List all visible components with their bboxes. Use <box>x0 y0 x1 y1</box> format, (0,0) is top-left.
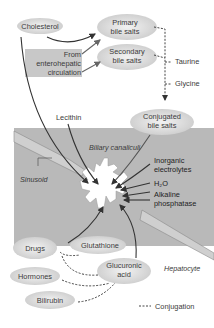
glucuronic-acid-label-1: Glucuronic <box>106 261 142 270</box>
inorganic-electrolytes-label-1: Inorganic <box>154 156 185 165</box>
enterohepatic-label-1: From <box>64 50 81 59</box>
taurine-label: Taurine <box>175 57 199 66</box>
secondary-bile-salts-label-2: bile salts <box>113 56 142 65</box>
hormones-label: Hormones <box>18 272 52 281</box>
glutathione-label: Glutathione <box>81 241 119 250</box>
biliary-canaliculi-label: Biliary canaliculi <box>89 143 141 152</box>
conjugated-bile-salts-label-1: Conjugated <box>143 112 181 121</box>
enterohepatic-label-3: circulation <box>48 68 81 77</box>
glucuronic-acid-label-2: acid <box>117 270 131 279</box>
glycine-label: Glycine <box>175 79 200 88</box>
primary-bile-salts-label-2: bile salts <box>111 27 140 36</box>
conjugated-bile-salts-label-2: bile salts <box>148 121 177 130</box>
sinusoid-label: Sinusoid <box>20 175 49 184</box>
lecithin-label: Lecithin <box>56 113 81 122</box>
primary-bile-salts-label-1: Primary <box>112 18 138 27</box>
secondary-bile-salts-label-1: Secondary <box>109 47 145 56</box>
legend-conjugation-label: Conjugation <box>155 302 194 311</box>
cholesterol-label: Cholesterol <box>21 22 59 31</box>
h2o-label: H₂O <box>154 179 168 188</box>
enterohepatic-label-2: enterohepatic <box>36 59 81 68</box>
alkaline-phosphatase-label-1: Alkaline <box>154 190 180 199</box>
bile-formation-diagram: Cholesterol Primary bile salts Secondary… <box>0 0 214 328</box>
drugs-label: Drugs <box>25 244 45 253</box>
alkaline-phosphatase-label-2: phosphatase <box>154 199 196 208</box>
hepatocyte-label: Hepatocyte <box>164 264 200 273</box>
bilirubin-label: Bilirubin <box>37 296 63 305</box>
inorganic-electrolytes-label-2: electrolytes <box>154 165 192 174</box>
